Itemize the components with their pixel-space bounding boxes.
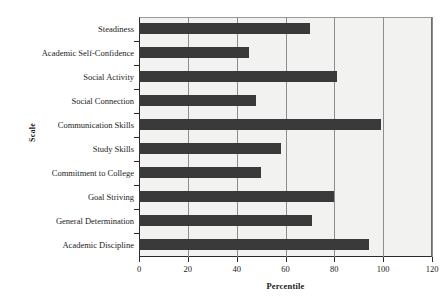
- y-axis-tick-label: Academic Discipline: [0, 240, 134, 250]
- x-axis-tick-label: 100: [363, 264, 403, 274]
- x-axis-tick: [432, 257, 433, 262]
- bar: [139, 71, 337, 82]
- bar-row: [139, 161, 432, 185]
- bar: [139, 191, 334, 202]
- x-axis-tick: [334, 257, 335, 262]
- x-axis-tick-label: 80: [314, 264, 354, 274]
- bar-row: [139, 65, 432, 89]
- y-axis-tick: [134, 209, 139, 210]
- y-axis-tick: [134, 65, 139, 66]
- x-axis-tick: [383, 257, 384, 262]
- bar: [139, 143, 281, 154]
- y-axis-tick-label: Study Skills: [0, 144, 134, 154]
- bar: [139, 47, 249, 58]
- x-axis-tick: [139, 257, 140, 262]
- y-axis-tick: [134, 137, 139, 138]
- bar-row: [139, 209, 432, 233]
- x-axis-tick-label: 20: [168, 264, 208, 274]
- bar: [139, 119, 381, 130]
- x-axis-tick: [237, 257, 238, 262]
- x-axis-tick-label: 120: [412, 264, 448, 274]
- x-axis-tick-label: 60: [266, 264, 306, 274]
- bar-row: [139, 137, 432, 161]
- x-axis-tick: [286, 257, 287, 262]
- y-axis-tick: [134, 89, 139, 90]
- bar-row: [139, 17, 432, 41]
- x-axis-tick-label: 0: [119, 264, 159, 274]
- bar-row: [139, 41, 432, 65]
- bar-row: [139, 113, 432, 137]
- y-axis-tick-label: Social Activity: [0, 72, 134, 82]
- bar-row: [139, 89, 432, 113]
- y-axis-tick: [134, 185, 139, 186]
- y-axis-tick-label: Social Connection: [0, 96, 134, 106]
- y-axis-tick-label: Communication Skills: [0, 120, 134, 130]
- y-axis-tick: [134, 161, 139, 162]
- bar-row: [139, 185, 432, 209]
- y-axis-tick: [134, 41, 139, 42]
- bar: [139, 215, 312, 226]
- gridline: [432, 17, 433, 257]
- bar: [139, 239, 369, 250]
- x-axis-tick: [188, 257, 189, 262]
- bar: [139, 95, 256, 106]
- x-axis-tick-label: 40: [217, 264, 257, 274]
- y-axis-tick-label: Steadiness: [0, 24, 134, 34]
- y-axis-tick-label: Academic Self-Confidence: [0, 48, 134, 58]
- bar: [139, 167, 261, 178]
- y-axis-tick-label: General Determination: [0, 216, 134, 226]
- x-axis-title: Percentile: [139, 281, 432, 291]
- y-axis-tick-label: Commitment to College: [0, 168, 134, 178]
- bar-row: [139, 233, 432, 257]
- bar: [139, 23, 310, 34]
- y-axis-tick: [134, 113, 139, 114]
- y-axis-tick: [134, 233, 139, 234]
- bar-chart: Scale SteadinessAcademic Self-Confidence…: [0, 0, 448, 303]
- y-axis-tick-label: Goal Striving: [0, 192, 134, 202]
